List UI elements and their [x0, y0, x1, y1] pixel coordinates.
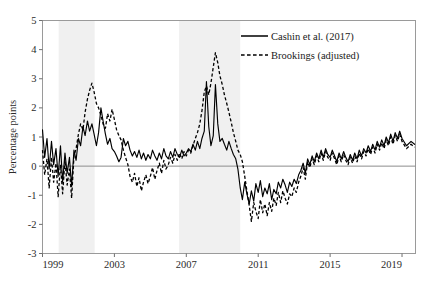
x-axis-tick-label: 2007	[176, 259, 197, 270]
line-chart: 543210-1-2-3 199920032007201120152019 Pe…	[0, 0, 430, 287]
x-axis-group: 199920032007201120152019	[43, 254, 403, 270]
y-axis-tick-label: 5	[31, 15, 36, 26]
y-axis-tick-label: 3	[31, 73, 36, 84]
y-axis-group: 543210-1-2-3	[28, 15, 43, 259]
y-axis-tick-label: -2	[28, 219, 37, 230]
y-axis-tick-label: 0	[31, 161, 36, 172]
y-axis-tick-label: -3	[28, 248, 37, 259]
legend: Cashin et al. (2017)Brookings (adjusted)	[241, 31, 360, 62]
y-axis-tick-label: 4	[31, 44, 37, 55]
y-axis-title: Percentage points	[7, 100, 18, 174]
legend-label: Cashin et al. (2017)	[271, 31, 354, 43]
chart-container: 543210-1-2-3 199920032007201120152019 Pe…	[0, 0, 430, 287]
x-axis-tick-label: 2003	[104, 259, 125, 270]
x-axis-tick-label: 1999	[43, 259, 64, 270]
x-axis-tick-label: 2019	[381, 259, 402, 270]
y-axis-tick-label: 2	[31, 102, 36, 113]
x-axis-tick-label: 2011	[248, 259, 269, 270]
y-axis-tick-label: -1	[28, 190, 37, 201]
x-axis-tick-label: 2015	[320, 259, 341, 270]
recession-band-2001	[59, 21, 95, 254]
legend-label: Brookings (adjusted)	[271, 50, 360, 62]
y-axis-tick-label: 1	[31, 132, 36, 143]
